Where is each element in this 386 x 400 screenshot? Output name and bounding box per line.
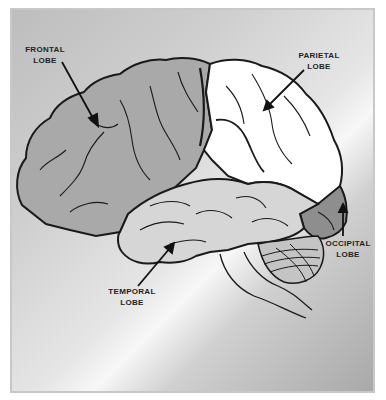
occipital-lobe-label-line2: LOBE xyxy=(322,249,374,260)
temporal-lobe-label-line2: LOBE xyxy=(104,297,160,308)
frontal-lobe-label-line1: FRONTAL xyxy=(20,44,70,55)
occipital-lobe-label: OCCIPITAL LOBE xyxy=(322,238,374,260)
occipital-lobe-label-line1: OCCIPITAL xyxy=(322,238,374,249)
frontal-lobe-label-line2: LOBE xyxy=(20,55,70,66)
temporal-lobe-label: TEMPORAL LOBE xyxy=(104,286,160,308)
temporal-lobe-label-line1: TEMPORAL xyxy=(104,286,160,297)
frontal-lobe-label: FRONTAL LOBE xyxy=(20,44,70,66)
parietal-lobe-label-line1: PARIETAL xyxy=(293,50,345,61)
parietal-lobe-label: PARIETAL LOBE xyxy=(293,50,345,72)
parietal-lobe-label-line2: LOBE xyxy=(293,61,345,72)
